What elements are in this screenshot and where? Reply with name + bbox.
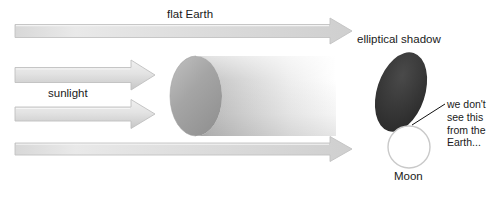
annotation-line-3: from the	[447, 124, 494, 137]
flat-earth-shadow-diagram: flat Earth sunlight elliptical shadow Mo…	[0, 0, 494, 198]
annotation-line-4: Earth...	[447, 136, 494, 149]
annotation-not-seen-from-earth: we don't see this from the Earth...	[447, 98, 494, 149]
arrow-flat-earth-ray	[15, 18, 352, 44]
annotation-line-1: we don't	[447, 98, 494, 111]
label-moon: Moon	[394, 170, 423, 183]
arrow-sunlight-upper	[15, 60, 155, 90]
elliptical-shadow	[366, 46, 437, 139]
moon-circle	[388, 126, 430, 168]
shadow-cylinder	[170, 56, 336, 136]
arrow-sunlight-lower	[15, 100, 155, 129]
label-flat-earth: flat Earth	[167, 8, 213, 21]
label-elliptical-shadow: elliptical shadow	[357, 33, 441, 46]
arrow-bottom-ray	[15, 137, 352, 162]
annotation-line-2: see this	[447, 111, 494, 124]
label-sunlight: sunlight	[48, 87, 88, 100]
